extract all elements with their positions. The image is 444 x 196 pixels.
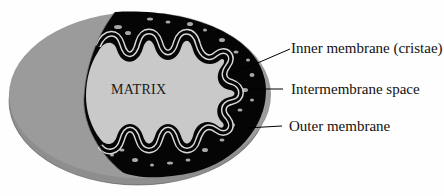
outer-membrane-label: Outer membrane — [289, 119, 390, 134]
intermembrane-space-label: Intermembrane space — [291, 82, 420, 97]
mitochondrion-diagram: MATRIX Inner membrane (cristae) Intermem… — [0, 0, 444, 196]
matrix-label: MATRIX — [111, 83, 166, 97]
mitochondrion-illustration — [0, 0, 444, 196]
inner-membrane-label: Inner membrane (cristae) — [291, 41, 443, 56]
